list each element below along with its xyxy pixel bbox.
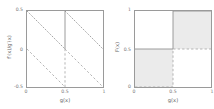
- panel-right-x-tick-0: 0: [128, 89, 140, 94]
- panel-left-svg: [27, 11, 103, 87]
- panel-left: f′(x)/g′(x) 0.5 0 -0.5 0 0.5 1 g(x): [0, 0, 107, 109]
- panel-left-x-tick-0: 0: [20, 89, 32, 94]
- panel-left-x-axis-label: g(x): [45, 97, 85, 103]
- panel-left-plot-area: [26, 10, 104, 88]
- panel-right: F(x) 1 0.5 0 0 0.5 1 g(x): [107, 0, 214, 109]
- panel-right-plot-area: [134, 10, 212, 88]
- panel-right-svg: [135, 11, 211, 87]
- series-dashed-branch-2: [65, 49, 103, 87]
- region-bottom-left-block: [135, 49, 173, 87]
- panel-left-y-tick-top: 0.5: [10, 7, 23, 12]
- two-panel-figure: f′(x)/g′(x) 0.5 0 -0.5 0 0.5 1 g(x) F(x)…: [0, 0, 214, 109]
- panel-left-y-tick-mid: 0: [10, 47, 23, 52]
- panel-right-y-tick-mid: 0.5: [116, 47, 131, 52]
- panel-right-x-tick-mid: 0.5: [167, 89, 179, 94]
- panel-right-y-tick-top: 1: [119, 7, 131, 12]
- panel-right-x-axis-label: g(x): [153, 97, 193, 103]
- series-sawtooth-solid-branch-1: [27, 11, 65, 49]
- panel-left-x-tick-mid: 0.5: [59, 89, 71, 94]
- series-dashed-branch-1: [27, 49, 65, 87]
- panel-right-x-tick-1: 1: [206, 89, 214, 94]
- series-sawtooth-solid-branch-2: [65, 11, 103, 49]
- region-top-right-block: [173, 11, 211, 49]
